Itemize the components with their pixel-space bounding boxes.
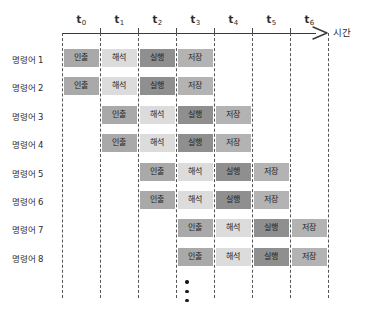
time-tick-label-t3: t3 bbox=[190, 14, 199, 25]
column-gridline-0 bbox=[62, 33, 63, 298]
stage-block-store-row1: 저장 bbox=[178, 49, 213, 67]
instruction-row-label-3: 명령어 3 bbox=[12, 110, 60, 122]
tick-subscript: 6 bbox=[310, 19, 314, 27]
time-axis-label: 시간 bbox=[333, 25, 352, 39]
tick-subscript: 5 bbox=[272, 19, 276, 27]
stage-block-decode-row6: 해석 bbox=[178, 191, 213, 209]
stage-block-execute-row5: 실행 bbox=[216, 163, 251, 181]
ellipsis-dot bbox=[185, 299, 188, 302]
stage-block-fetch-row3: 인출 bbox=[102, 106, 137, 124]
stage-block-decode-row2: 해석 bbox=[102, 77, 137, 95]
stage-block-execute-row3: 실행 bbox=[178, 106, 213, 124]
tick-subscript: 1 bbox=[120, 19, 124, 27]
time-tick-label-t2: t2 bbox=[152, 14, 161, 25]
instruction-row-label-1: 명령어 1 bbox=[12, 53, 60, 65]
stage-block-fetch-row4: 인출 bbox=[102, 134, 137, 152]
ellipsis-dot bbox=[185, 290, 188, 293]
vertical-ellipsis bbox=[183, 280, 191, 308]
stage-block-decode-row7: 해석 bbox=[216, 219, 251, 237]
stage-block-fetch-row8: 인출 bbox=[178, 248, 213, 266]
column-gridline-7 bbox=[328, 33, 329, 298]
instruction-row-label-4: 명령어 4 bbox=[12, 138, 60, 150]
instruction-row-label-8: 명령어 8 bbox=[12, 252, 60, 264]
stage-block-store-row4: 저장 bbox=[216, 134, 251, 152]
tick-subscript: 4 bbox=[234, 19, 238, 27]
time-tick-label-t5: t5 bbox=[266, 14, 275, 25]
stage-block-decode-row4: 해석 bbox=[140, 134, 175, 152]
instruction-row-label-5: 명령어 5 bbox=[12, 167, 60, 179]
time-tick-label-t0: t0 bbox=[76, 14, 85, 25]
time-tick-label-t1: t1 bbox=[114, 14, 123, 25]
stage-block-execute-row6: 실행 bbox=[216, 191, 251, 209]
stage-block-fetch-row2: 인출 bbox=[64, 77, 99, 95]
stage-block-store-row3: 저장 bbox=[216, 106, 251, 124]
stage-block-execute-row4: 실행 bbox=[178, 134, 213, 152]
stage-block-store-row2: 저장 bbox=[178, 77, 213, 95]
stage-block-fetch-row6: 인출 bbox=[140, 191, 175, 209]
stage-block-fetch-row5: 인출 bbox=[140, 163, 175, 181]
stage-block-execute-row8: 실행 bbox=[254, 248, 289, 266]
instruction-row-label-2: 명령어 2 bbox=[12, 81, 60, 93]
stage-block-decode-row5: 해석 bbox=[178, 163, 213, 181]
ellipsis-dot bbox=[185, 280, 188, 283]
instruction-row-label-6: 명령어 6 bbox=[12, 195, 60, 207]
stage-block-fetch-row1: 인출 bbox=[64, 49, 99, 67]
stage-block-decode-row8: 해석 bbox=[216, 248, 251, 266]
stage-block-store-row8: 저장 bbox=[292, 248, 327, 266]
instruction-row-label-7: 명령어 7 bbox=[12, 223, 60, 235]
stage-block-decode-row1: 해석 bbox=[102, 49, 137, 67]
stage-block-store-row6: 저장 bbox=[254, 191, 289, 209]
pipeline-timing-diagram: 시간 t0t1t2t3t4t5t6명령어 1인출해석실행저장명령어 2인출해석실… bbox=[0, 0, 370, 321]
stage-block-decode-row3: 해석 bbox=[140, 106, 175, 124]
stage-block-store-row7: 저장 bbox=[292, 219, 327, 237]
stage-block-execute-row2: 실행 bbox=[140, 77, 175, 95]
tick-subscript: 0 bbox=[82, 19, 86, 27]
column-gridline-1 bbox=[100, 33, 101, 298]
tick-subscript: 2 bbox=[158, 19, 162, 27]
stage-block-execute-row7: 실행 bbox=[254, 219, 289, 237]
time-tick-label-t4: t4 bbox=[228, 14, 237, 25]
tick-subscript: 3 bbox=[196, 19, 200, 27]
stage-block-store-row5: 저장 bbox=[254, 163, 289, 181]
stage-block-fetch-row7: 인출 bbox=[178, 219, 213, 237]
time-tick-label-t6: t6 bbox=[304, 14, 313, 25]
stage-block-execute-row1: 실행 bbox=[140, 49, 175, 67]
